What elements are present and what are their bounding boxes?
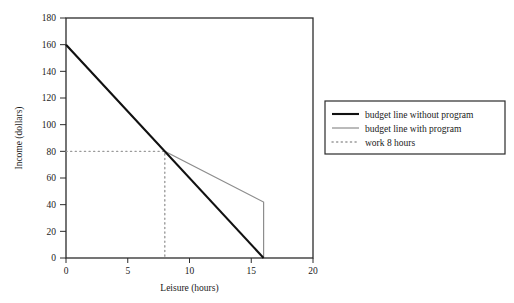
y-tick-label-140: 140 [42, 67, 57, 77]
y-tick-label-160: 160 [42, 40, 57, 50]
x-axis-title: Leisure (hours) [160, 283, 218, 294]
x-tick-label-20: 20 [308, 266, 318, 276]
x-axis-ticks [66, 258, 313, 263]
y-tick-label-180: 180 [42, 13, 57, 23]
y-axis-title: Income (dollars) [14, 106, 25, 169]
y-tick-label-60: 60 [47, 173, 57, 183]
x-tick-label-15: 15 [247, 266, 257, 276]
y-axis-ticks [60, 18, 66, 258]
series-budget-line-without-program [66, 45, 264, 258]
y-tick-label-20: 20 [47, 227, 57, 237]
x-axis-tick-labels: 0 5 10 15 20 [64, 266, 318, 276]
legend-label-2: work 8 hours [365, 138, 415, 148]
legend-label-0: budget line without program [365, 110, 474, 120]
budget-line-chart: 0 20 40 60 80 100 120 140 160 180 0 5 10… [0, 0, 514, 303]
chart-page: 0 20 40 60 80 100 120 140 160 180 0 5 10… [0, 0, 514, 303]
x-tick-label-5: 5 [125, 266, 130, 276]
y-tick-label-0: 0 [51, 253, 56, 263]
y-axis-tick-labels: 0 20 40 60 80 100 120 140 160 180 [42, 13, 57, 263]
x-tick-label-0: 0 [64, 266, 69, 276]
y-tick-label-80: 80 [47, 147, 57, 157]
legend-label-1: budget line with program [365, 124, 462, 134]
x-tick-label-10: 10 [185, 266, 195, 276]
y-tick-label-120: 120 [42, 93, 57, 103]
chart-legend: budget line without program budget line … [325, 101, 505, 154]
y-tick-label-40: 40 [47, 200, 57, 210]
series-work-8-hours [66, 151, 165, 258]
plot-frame [66, 18, 313, 258]
y-tick-label-100: 100 [42, 120, 57, 130]
